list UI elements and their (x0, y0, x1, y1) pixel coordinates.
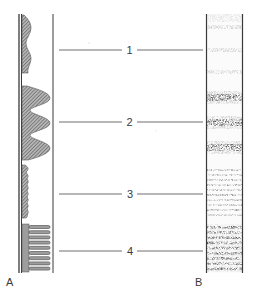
profile-section-1 (22, 15, 31, 73)
band (207, 184, 242, 186)
marker-1: 1 (59, 44, 203, 56)
band (207, 214, 242, 216)
marker-4: 4 (59, 245, 203, 257)
marker-2: 2 (59, 116, 203, 128)
panel-a: A (6, 14, 53, 288)
band-halo (207, 141, 242, 154)
profile-section-2 (22, 86, 50, 160)
band (207, 174, 242, 176)
band (207, 209, 242, 211)
band (207, 179, 242, 181)
marker-label: 1 (126, 44, 132, 56)
panel-b: B (195, 14, 243, 288)
band (207, 14, 242, 22)
profile-section-3 (22, 165, 28, 218)
band (207, 194, 242, 196)
profile-section-4 (22, 224, 50, 272)
band (207, 169, 242, 171)
marker-label: 3 (127, 188, 133, 200)
band (207, 189, 242, 191)
band-halo (207, 116, 242, 129)
band (207, 199, 242, 201)
band (207, 25, 242, 29)
figure: A (0, 0, 254, 294)
panel-b-label: B (195, 276, 202, 288)
speck (88, 42, 89, 43)
marker-label: 4 (127, 245, 133, 257)
band (207, 204, 242, 206)
marker-label: 2 (126, 116, 132, 128)
marker-3: 3 (59, 188, 203, 200)
band-halo (207, 224, 242, 272)
panel-a-label: A (6, 276, 14, 288)
band (207, 70, 242, 74)
band-halo (207, 91, 242, 104)
band (207, 48, 242, 52)
speck (156, 131, 157, 132)
